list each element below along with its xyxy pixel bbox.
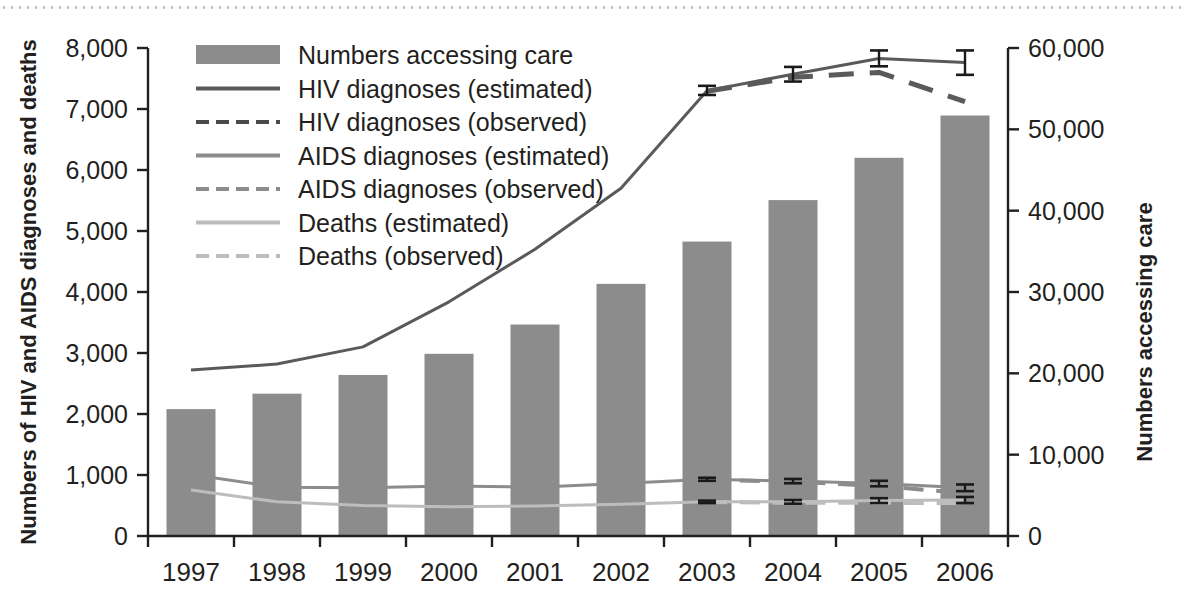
- x-tick-label-1997: 1997: [162, 557, 220, 587]
- left-tick-label-5000: 5,000: [65, 217, 128, 245]
- legend-item-5[interactable]: Deaths (estimated): [196, 209, 509, 237]
- legend-item-3[interactable]: AIDS diagnoses (estimated): [196, 142, 609, 170]
- legend-label-2: HIV diagnoses (observed): [298, 108, 587, 136]
- x-tick-label-2002: 2002: [592, 557, 650, 587]
- bar-1999[interactable]: [339, 375, 388, 536]
- left-axis-title: Numbers of HIV and AIDS diagnoses and de…: [16, 39, 41, 544]
- legend: Numbers accessing careHIV diagnoses (est…: [196, 41, 609, 270]
- right-tick-label-60000: 60,000: [1028, 34, 1104, 62]
- legend-item-4[interactable]: AIDS diagnoses (observed): [196, 175, 604, 203]
- bar-1997[interactable]: [167, 409, 216, 536]
- right-axis-title: Numbers accessing care: [1132, 202, 1157, 461]
- legend-item-2[interactable]: HIV diagnoses (observed): [196, 108, 587, 136]
- errorbar-2003: [698, 501, 716, 503]
- legend-label-5: Deaths (estimated): [298, 209, 509, 237]
- x-tick-label-2001: 2001: [506, 557, 564, 587]
- right-tick-label-50000: 50,000: [1028, 115, 1104, 143]
- bar-2002[interactable]: [597, 284, 646, 536]
- left-tick-label-7000: 7,000: [65, 95, 128, 123]
- left-tick-label-4000: 4,000: [65, 278, 128, 306]
- x-tick-label-2004: 2004: [764, 557, 822, 587]
- x-tick-label-2000: 2000: [420, 557, 478, 587]
- x-tick-label-1999: 1999: [334, 557, 392, 587]
- bar-2006[interactable]: [941, 116, 990, 536]
- left-tick-label-6000: 6,000: [65, 156, 128, 184]
- legend-label-3: AIDS diagnoses (estimated): [298, 142, 609, 170]
- chart-figure: 01,0002,0003,0004,0005,0006,0007,0008,00…: [0, 0, 1182, 614]
- legend-swatch: [196, 45, 280, 64]
- legend-item-1[interactable]: HIV diagnoses (estimated): [196, 75, 593, 103]
- right-tick-label-10000: 10,000: [1028, 441, 1104, 469]
- legend-item-6[interactable]: Deaths (observed): [196, 242, 504, 270]
- legend-label-1: HIV diagnoses (estimated): [298, 75, 593, 103]
- x-tick-label-2006: 2006: [936, 557, 994, 587]
- left-tick-label-0: 0: [114, 522, 128, 550]
- legend-label-6: Deaths (observed): [298, 242, 504, 270]
- right-tick-label-0: 0: [1028, 522, 1042, 550]
- legend-label-4: AIDS diagnoses (observed): [298, 175, 604, 203]
- bar-1998[interactable]: [253, 394, 302, 536]
- bar-2005[interactable]: [855, 158, 904, 536]
- right-tick-label-40000: 40,000: [1028, 197, 1104, 225]
- bar-2004[interactable]: [769, 200, 818, 536]
- legend-label-0: Numbers accessing care: [298, 41, 573, 69]
- bar-2000[interactable]: [425, 354, 474, 536]
- right-tick-label-20000: 20,000: [1028, 359, 1104, 387]
- left-tick-label-8000: 8,000: [65, 34, 128, 62]
- left-tick-label-1000: 1,000: [65, 461, 128, 489]
- errorbars-group: [698, 50, 974, 503]
- bar-2003[interactable]: [683, 242, 732, 536]
- left-tick-label-3000: 3,000: [65, 339, 128, 367]
- x-tick-label-1998: 1998: [248, 557, 306, 587]
- x-tick-label-2003: 2003: [678, 557, 736, 587]
- legend-item-0[interactable]: Numbers accessing care: [196, 41, 573, 69]
- right-tick-label-30000: 30,000: [1028, 278, 1104, 306]
- line-hiv-diagnoses-observed[interactable]: [707, 72, 965, 101]
- x-tick-label-2005: 2005: [850, 557, 908, 587]
- left-tick-label-2000: 2,000: [65, 400, 128, 428]
